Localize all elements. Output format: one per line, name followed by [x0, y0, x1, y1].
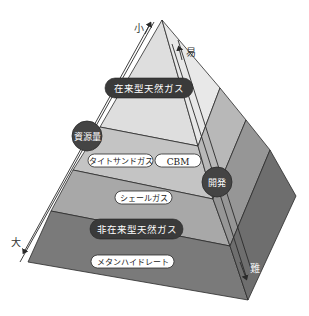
resource-volume-badge: 資源量 [72, 121, 102, 151]
pill-methane-hydrate: メタンハイドレート [91, 255, 174, 268]
development-badge: 開発 [202, 167, 232, 197]
pill-cbm: CBM [155, 154, 201, 167]
unconventional-gas-label: 非在来型天然ガス [97, 224, 177, 235]
label-large: 大 [11, 236, 21, 248]
label-difficult: 難 [250, 262, 260, 274]
pill-conventional-gas: 在来型天然ガス [105, 78, 193, 98]
methane-hydrate-label: メタンハイドレート [97, 258, 169, 267]
cbm-label: CBM [167, 157, 190, 167]
tight-sand-gas-label: タイトサンドガス [89, 156, 153, 166]
label-easy: 易 [186, 47, 196, 58]
development-label: 開発 [208, 177, 226, 188]
arrow-up-small [145, 24, 150, 34]
pill-unconventional-gas: 非在来型天然ガス [90, 219, 183, 239]
conventional-gas-label: 在来型天然ガス [114, 83, 184, 94]
label-small: 小 [134, 23, 144, 34]
resource-pyramid-diagram: 小 大 易 難 資源量 開発 在来型天然ガス タイトサンドガス CBM [0, 0, 309, 316]
pill-shale-gas: シェールガス [115, 191, 172, 204]
resource-volume-label: 資源量 [74, 131, 101, 142]
pill-tight-sand-gas: タイトサンドガス [88, 154, 153, 167]
shale-gas-label: シェールガス [120, 193, 168, 203]
